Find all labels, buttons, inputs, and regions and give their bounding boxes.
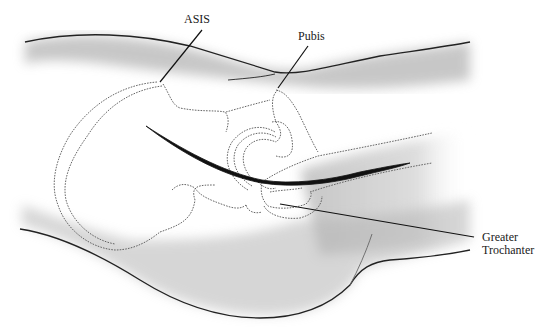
pelvis-outline [54, 82, 270, 250]
hip-anatomy-figure: ASIS Pubis Greater Trochanter [0, 0, 548, 330]
pubis-outline [272, 90, 318, 157]
label-asis: ASIS [184, 13, 210, 26]
label-greater-trochanter-line2: Trochanter [482, 244, 534, 257]
buttock-shading [22, 200, 470, 315]
label-pubis: Pubis [298, 30, 325, 43]
hip-illustration [0, 0, 548, 330]
top-flank-shading [25, 36, 470, 89]
